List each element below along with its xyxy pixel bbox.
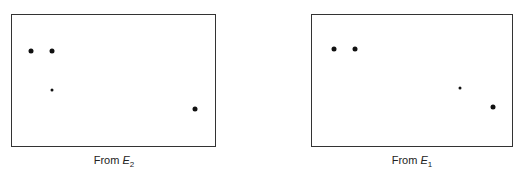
- caption-prefix: From: [392, 154, 421, 166]
- panel-from-e1: [311, 14, 513, 147]
- dot-small: [459, 87, 462, 90]
- dot: [353, 47, 358, 52]
- dot: [50, 49, 55, 54]
- caption-from-e1: From E1: [352, 154, 472, 169]
- caption-variable: E: [122, 154, 129, 166]
- caption-variable: E: [420, 154, 427, 166]
- dot: [491, 105, 496, 110]
- caption-prefix: From: [94, 154, 123, 166]
- dot: [332, 47, 337, 52]
- dot: [193, 107, 198, 112]
- caption-subscript: 2: [130, 160, 134, 169]
- panel-from-e2: [11, 14, 216, 147]
- caption-from-e2: From E2: [54, 154, 174, 169]
- caption-subscript: 1: [428, 160, 432, 169]
- dot-small: [51, 89, 54, 92]
- dot: [29, 49, 34, 54]
